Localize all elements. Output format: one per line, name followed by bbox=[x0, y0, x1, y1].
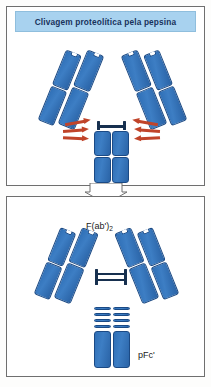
arrow-head bbox=[82, 126, 89, 132]
arrow-shaft bbox=[140, 137, 160, 140]
intact-antibody-panel-body: Clivagem proteolítica pela pepsina bbox=[7, 7, 204, 185]
pfc-right-stripe-2 bbox=[113, 313, 130, 316]
arrow-shaft bbox=[63, 129, 83, 133]
arrow-head bbox=[134, 126, 141, 132]
figure-header-band: Clivagem proteolítica pela pepsina bbox=[15, 11, 196, 32]
arrow-shaft bbox=[65, 120, 85, 126]
arrow-head bbox=[134, 135, 141, 141]
pfc-domain-ch3-left bbox=[94, 331, 111, 368]
pepsin-fragments-panel-body: F(ab')2 bbox=[7, 197, 204, 376]
pfc-domain-ch3-right bbox=[113, 331, 130, 368]
fab2-hinge-bar-lower bbox=[96, 279, 126, 281]
arrow-head bbox=[83, 117, 91, 124]
cleavage-arrow-right-3 bbox=[134, 135, 160, 141]
pfc-label-text: pFc' bbox=[138, 350, 155, 360]
cleavage-arrow-left-3 bbox=[63, 135, 89, 141]
domain-ch2-right bbox=[112, 131, 129, 156]
arrow-head bbox=[82, 135, 89, 141]
domain-ch3-right bbox=[112, 157, 129, 183]
arrow-shaft bbox=[138, 120, 158, 126]
fab2-hinge-post-left bbox=[95, 269, 98, 285]
figure-title: Clivagem proteolítica pela pepsina bbox=[35, 17, 177, 27]
domain-ch2-left bbox=[94, 131, 111, 156]
fab2-hinge-bar-upper bbox=[96, 273, 126, 275]
pfc-right-stripe-1 bbox=[113, 307, 130, 310]
fab2-hinge-post-right bbox=[124, 269, 127, 285]
cleavage-arrow-left-2 bbox=[63, 127, 89, 134]
pfc-left-stripe-1 bbox=[94, 307, 111, 310]
pfc-label: pFc' bbox=[138, 350, 155, 360]
pfc-left-stripe-4 bbox=[94, 325, 111, 328]
intact-antibody-panel: Clivagem proteolítica pela pepsina bbox=[6, 6, 205, 186]
antibody-pepsin-cleavage-figure: Clivagem proteolítica pela pepsina bbox=[0, 0, 211, 387]
fab2-label-subscript: 2 bbox=[109, 225, 113, 232]
arrow-shaft bbox=[63, 137, 83, 140]
pfc-right-stripe-4 bbox=[113, 325, 130, 328]
pfc-left-stripe-3 bbox=[94, 319, 111, 322]
hinge-disulfide-upper bbox=[98, 125, 124, 128]
arrow-shaft bbox=[140, 129, 160, 133]
pfc-left-stripe-2 bbox=[94, 313, 111, 316]
pepsin-fragments-panel: F(ab')2 bbox=[6, 196, 205, 377]
pfc-right-stripe-3 bbox=[113, 319, 130, 322]
hinge-stem-right bbox=[123, 121, 126, 130]
hinge-stem-left bbox=[97, 121, 100, 130]
cleavage-arrow-right-2 bbox=[134, 127, 160, 134]
domain-ch3-left bbox=[94, 157, 111, 183]
arrow-head bbox=[132, 117, 140, 124]
